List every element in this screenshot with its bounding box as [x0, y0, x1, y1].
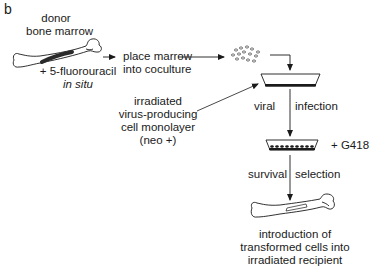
- culture-dish-2-icon: [266, 140, 318, 150]
- selection-label: selection: [295, 168, 340, 181]
- arrow-monolayer-to-dish: [197, 84, 258, 111]
- monolayer-label: irradiated virus-producing cell monolaye…: [113, 95, 203, 147]
- introduction-label: introduction of transformed cells into i…: [240, 228, 350, 267]
- marrow-cells-icon: [231, 46, 259, 62]
- infection-label: infection: [295, 100, 338, 113]
- culture-dish-1-icon: [261, 74, 320, 87]
- monolayer-line2: virus-producing: [113, 108, 203, 121]
- donor-label-line2: bone marrow: [26, 25, 86, 38]
- place-marrow-line1: place marrow: [123, 50, 192, 63]
- treatment-label: + 5-fluorouracil in situ: [38, 65, 118, 91]
- donor-label: donor bone marrow: [26, 12, 86, 38]
- viral-label: viral: [254, 100, 275, 113]
- place-marrow-line2: into coculture: [123, 63, 192, 76]
- donor-label-line1: donor: [26, 12, 86, 25]
- monolayer-line3: cell monolayer: [113, 121, 203, 134]
- arrow-to-dish-1: [270, 55, 290, 70]
- introduction-line2: transformed cells into: [240, 241, 350, 254]
- treatment-label-line2: in situ: [38, 78, 118, 91]
- g418-label: + G418: [331, 139, 369, 152]
- recipient-bone-icon: [251, 194, 334, 217]
- introduction-line1: introduction of: [240, 228, 350, 241]
- survival-label: survival: [248, 168, 287, 181]
- monolayer-line1: irradiated: [113, 95, 203, 108]
- donor-bone-icon: [13, 39, 101, 67]
- monolayer-line4: (neo +): [113, 134, 203, 147]
- place-marrow-label: place marrow into coculture: [123, 50, 192, 76]
- treatment-label-line1: + 5-fluorouracil: [38, 65, 118, 78]
- introduction-line3: irradiated recipient: [240, 254, 350, 267]
